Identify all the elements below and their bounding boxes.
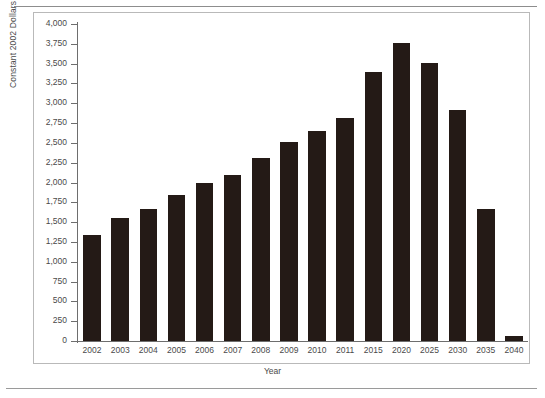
- bar: [111, 218, 128, 341]
- y-axis-tick: 2,500: [71, 143, 78, 144]
- bar: [365, 72, 382, 341]
- y-axis-tick: 0: [71, 341, 78, 342]
- y-axis-tick-label: 2,250: [46, 157, 67, 167]
- y-axis-tick-label: 2,500: [46, 137, 67, 147]
- bar: [196, 183, 213, 342]
- bar: [308, 131, 325, 341]
- bar: [252, 158, 269, 341]
- x-axis-category-label: 2040: [497, 345, 531, 355]
- bar: [449, 110, 466, 341]
- y-axis-tick-label: 750: [53, 276, 67, 286]
- bar: [168, 195, 185, 341]
- x-axis-title: Year: [0, 366, 545, 376]
- bar: [224, 175, 241, 341]
- y-axis-tick: 2,750: [71, 123, 78, 124]
- y-axis-title-container: Constant 2002 Dollars in Billions: [12, 0, 34, 352]
- y-axis-tick-label: 3,250: [46, 77, 67, 87]
- y-axis-tick-label: 1,500: [46, 216, 67, 226]
- bar: [393, 43, 410, 341]
- y-axis-tick: 1,750: [71, 202, 78, 203]
- bar: [477, 209, 494, 341]
- y-axis-tick: 1,000: [71, 262, 78, 263]
- y-axis-title: Constant 2002 Dollars in Billions: [8, 0, 18, 88]
- y-axis-tick-label: 500: [53, 295, 67, 305]
- bar: [140, 209, 157, 341]
- y-axis-tick: 1,250: [71, 242, 78, 243]
- page-rule-bottom: [6, 388, 537, 389]
- bar: [336, 118, 353, 341]
- y-axis-tick: 3,750: [71, 44, 78, 45]
- y-axis-tick-label: 3,500: [46, 58, 67, 68]
- chart-page: Constant 2002 Dollars in Billions 4,0003…: [0, 0, 545, 398]
- y-axis-tick: 750: [71, 282, 78, 283]
- y-axis-tick-label: 3,000: [46, 97, 67, 107]
- bar: [421, 63, 438, 341]
- y-axis-tick: 3,250: [71, 83, 78, 84]
- y-axis-tick: 500: [71, 301, 78, 302]
- bar-series: [78, 24, 528, 341]
- y-axis-tick-label: 3,750: [46, 38, 67, 48]
- bar: [83, 235, 100, 341]
- y-axis-tick-label: 4,000: [46, 18, 67, 28]
- bar: [280, 142, 297, 341]
- y-axis-tick: 1,500: [71, 222, 78, 223]
- y-axis-tick: 250: [71, 321, 78, 322]
- y-axis-tick-label: 1,750: [46, 196, 67, 206]
- y-axis-tick: 2,250: [71, 163, 78, 164]
- y-axis-tick-label: 1,000: [46, 256, 67, 266]
- y-axis-tick: 3,000: [71, 103, 78, 104]
- y-axis-tick-label: 2,750: [46, 117, 67, 127]
- y-axis-tick-label: 250: [53, 315, 67, 325]
- x-axis-line: [77, 341, 528, 342]
- y-axis-tick-label: 2,000: [46, 177, 67, 187]
- y-axis-tick-label: 0: [62, 335, 67, 345]
- bar: [505, 336, 522, 341]
- y-axis-tick: 2,000: [71, 183, 78, 184]
- y-axis-tick: 3,500: [71, 64, 78, 65]
- y-axis-tick: 4,000: [71, 24, 78, 25]
- page-rule-top: [14, 6, 537, 7]
- y-axis-tick-label: 1,250: [46, 236, 67, 246]
